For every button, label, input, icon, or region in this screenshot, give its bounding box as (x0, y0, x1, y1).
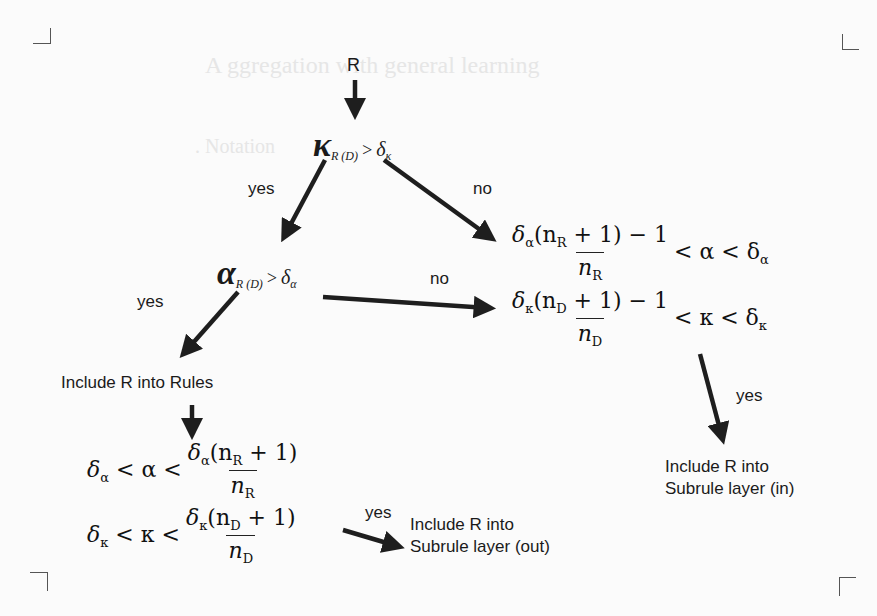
kappa-subscript: R (D) (331, 149, 358, 163)
arrow-no-branch-yes (700, 354, 722, 437)
arrow-yes-branch-yes (343, 530, 397, 546)
start-node-r: R (347, 55, 360, 76)
kappa-symbol: κ (313, 126, 331, 163)
include-into-rules: Include R into Rules (61, 372, 213, 393)
condition-yes-kappa: δκ < κ < δκ(nD + 1) nD (87, 505, 298, 567)
label-kappa-no: no (473, 178, 492, 199)
alpha-subscript: R (D) (236, 277, 263, 291)
arrow-kappa-yes (285, 160, 325, 235)
alpha-symbol: α (217, 254, 236, 291)
arrow-alpha-yes (185, 292, 238, 352)
arrow-alpha-no (323, 297, 488, 308)
label-no-branch-yes: yes (736, 385, 762, 406)
outcome-subrule-in: Include R into Subrule layer (in) (665, 456, 794, 500)
label-alpha-yes: yes (137, 291, 163, 312)
label-yes-branch-yes: yes (365, 502, 391, 523)
condition-yes-alpha: δα < α < δα(nR + 1) nR (87, 440, 299, 502)
outcome-subrule-out: Include R into Subrule layer (out) (410, 514, 550, 558)
decision-kappa: κR (D)>δκ (313, 126, 391, 164)
condition-no-kappa: δκ(nD + 1) − 1 nD < κ < δκ (510, 288, 767, 350)
decision-alpha: αR (D)>δα (217, 254, 297, 292)
label-kappa-yes: yes (248, 178, 274, 199)
label-alpha-no: no (430, 268, 449, 289)
condition-no-alpha: δα(nR + 1) − 1 nR < α < δα (510, 222, 769, 284)
